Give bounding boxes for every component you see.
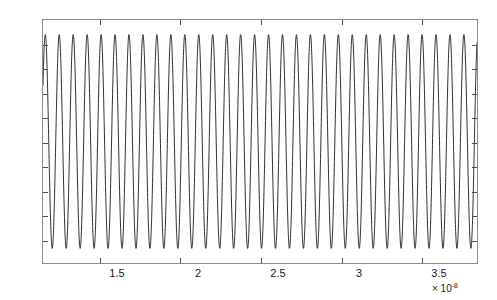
y-axis-tick <box>43 94 48 95</box>
plot-area <box>42 19 478 264</box>
y-axis-tick <box>43 167 48 168</box>
x-axis-tick <box>180 258 181 263</box>
y-axis-tick <box>472 118 477 119</box>
x-axis-tick <box>422 258 423 263</box>
x-exponent-mantissa: × 10 <box>432 283 452 294</box>
y-axis-tick <box>43 45 48 46</box>
y-axis-tick <box>43 216 48 217</box>
y-axis-tick <box>472 241 477 242</box>
x-axis-tick <box>261 258 262 263</box>
x-tick-label: 2 <box>195 268 201 279</box>
x-tick-label: 2.5 <box>270 268 285 279</box>
y-axis-tick <box>43 118 48 119</box>
y-axis-tick <box>43 143 48 144</box>
y-axis-tick <box>472 69 477 70</box>
x-exponent-power: -8 <box>452 282 458 289</box>
x-axis-tick <box>180 20 181 25</box>
x-tick-label: 3.5 <box>431 268 446 279</box>
x-axis-tick <box>100 258 101 263</box>
x-axis-tick <box>342 258 343 263</box>
x-axis-exponent-label: × 10-8 <box>432 281 458 294</box>
x-axis-tick <box>342 20 343 25</box>
y-axis-tick <box>472 45 477 46</box>
y-axis-tick <box>472 216 477 217</box>
signal-trace-path <box>43 35 477 249</box>
y-axis-tick <box>472 192 477 193</box>
x-tick-label: 3 <box>356 268 362 279</box>
signal-trace <box>43 20 477 263</box>
x-tick-label: 1.5 <box>109 268 124 279</box>
y-axis-tick <box>43 192 48 193</box>
y-axis-tick <box>472 167 477 168</box>
y-axis-tick <box>43 69 48 70</box>
x-axis-tick <box>100 20 101 25</box>
y-axis-tick <box>472 94 477 95</box>
y-axis-tick <box>472 143 477 144</box>
x-axis-tick <box>261 20 262 25</box>
x-axis-tick <box>422 20 423 25</box>
y-axis-tick <box>43 241 48 242</box>
figure-canvas: 0.5 0.4 0.3 0.2 0.1 0 -0.1 -0.2 -0.3 -0.… <box>0 0 497 300</box>
